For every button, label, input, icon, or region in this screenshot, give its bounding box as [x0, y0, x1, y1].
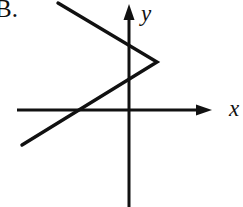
y-axis-label: y [141, 2, 151, 25]
x-axis-label: x [229, 97, 239, 120]
coordinate-plane-svg [0, 0, 243, 207]
math-graph-figure: B. y x [0, 0, 243, 207]
arrow-up-icon [124, 4, 135, 20]
arrow-right-icon [196, 105, 212, 116]
sideways-v-curve [22, 3, 157, 145]
